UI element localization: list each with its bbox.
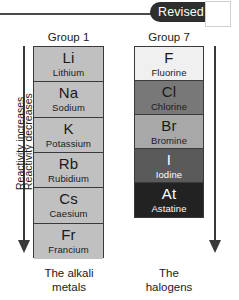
element-symbol: Br <box>161 118 176 134</box>
caption-line-2: metals <box>24 280 114 294</box>
element-name: Caesium <box>49 208 87 219</box>
element-name: Sodium <box>52 102 85 113</box>
element-cell: FFluorine <box>135 47 203 81</box>
caption-line-1: The <box>124 266 214 280</box>
element-name: Iodine <box>156 169 182 180</box>
arrow-shaft-icon <box>214 46 216 242</box>
element-symbol: K <box>63 121 73 137</box>
element-cell: FrFrancium <box>34 224 103 259</box>
element-cell: BrBromine <box>135 115 203 149</box>
element-cell: AtAstatine <box>135 183 203 217</box>
top-banner: Revised <box>0 0 239 26</box>
arrow-head-down-icon <box>18 240 30 253</box>
alkali-metals-caption: The alkali metals <box>24 266 114 294</box>
element-cell: KPotassium <box>34 118 103 153</box>
reactivity-decreases-arrow <box>209 46 237 261</box>
element-symbol: I <box>167 152 171 168</box>
element-name: Francium <box>48 244 88 255</box>
element-cell: ClChlorine <box>135 81 203 115</box>
element-symbol: At <box>162 186 177 202</box>
element-name: Chlorine <box>151 101 187 112</box>
element-name: Fluorine <box>151 67 186 78</box>
alkali-metals-table: LiLithiumNaSodiumKPotassiumRbRubidiumCsC… <box>33 46 104 258</box>
badge-white-patch <box>205 1 231 27</box>
element-cell: LiLithium <box>34 47 103 82</box>
element-symbol: Na <box>59 85 79 101</box>
element-symbol: Cs <box>59 191 78 207</box>
element-symbol: Li <box>62 50 74 66</box>
element-symbol: F <box>164 50 173 66</box>
revised-badge-label: Revised <box>158 4 204 20</box>
element-symbol: Cl <box>162 84 177 100</box>
arrow-head-down-icon <box>209 240 221 253</box>
reactivity-decreases-label: Reactivity decreases <box>22 93 34 190</box>
element-name: Rubidium <box>48 173 89 184</box>
element-cell: IIodine <box>135 149 203 183</box>
group-7-heading: Group 7 <box>134 31 204 44</box>
element-symbol: Fr <box>61 227 76 243</box>
element-cell: NaSodium <box>34 82 103 117</box>
element-cell: CsCaesium <box>34 188 103 223</box>
element-name: Lithium <box>53 67 84 78</box>
halogens-table: FFluorineClChlorineBrBromineIIodineAtAst… <box>134 46 204 218</box>
element-name: Bromine <box>151 135 187 146</box>
group-1-heading: Group 1 <box>33 31 104 44</box>
element-symbol: Rb <box>59 156 79 172</box>
element-name: Astatine <box>151 203 186 214</box>
caption-line-2: halogens <box>124 280 214 294</box>
halogens-caption: The halogens <box>124 266 214 294</box>
caption-line-1: The alkali <box>24 266 114 280</box>
element-name: Potassium <box>46 138 91 149</box>
element-cell: RbRubidium <box>34 153 103 188</box>
